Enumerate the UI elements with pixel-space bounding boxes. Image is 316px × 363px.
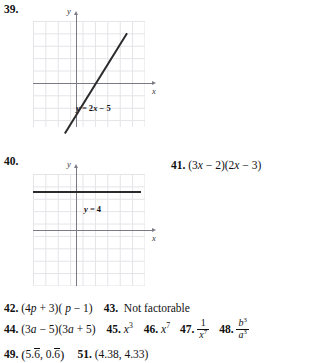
- answer-42: (4p + 3)( p − 1): [18, 302, 92, 314]
- fraction-48: b3a3: [236, 318, 248, 340]
- problem-number-49: 49.: [4, 348, 18, 360]
- problem-number-51: 51.: [77, 348, 91, 360]
- graph-40-line: [33, 191, 141, 193]
- graph-40-x-axis-arrow-icon: [152, 228, 156, 232]
- answer-41: (3x − 2)(2x − 3): [185, 159, 261, 171]
- graph-39-x-axis-arrow-icon: [152, 81, 156, 85]
- answer-47: 1x7: [194, 323, 209, 335]
- graph-40: y x y = 4: [33, 168, 145, 286]
- problem-number-42: 42.: [4, 302, 18, 314]
- answer-44: (3a − 5)(3a + 5): [18, 323, 95, 335]
- answer-row-49-51: 49. (5.6, 0.6)51. (4.38, 4.33): [4, 344, 148, 363]
- problem-number-48: 48.: [219, 323, 233, 335]
- graph-39: y x y = 2x − 5: [33, 15, 145, 127]
- graph-40-x-axis-label: x: [152, 233, 156, 243]
- answer-43: Not factorable: [118, 302, 190, 314]
- fraction-47: 1x7: [197, 318, 209, 340]
- graph-39-y-axis-arrow-icon: [74, 11, 78, 15]
- answer-45: x3: [121, 323, 133, 335]
- graph-40-x-axis: [33, 230, 153, 231]
- graph-40-equation-label: y = 4: [84, 204, 101, 214]
- problem-number-45: 45.: [107, 323, 121, 335]
- answer-46: x7: [158, 323, 170, 335]
- answer-48: b3a3: [234, 323, 249, 335]
- graph-39-eq-mid: = 2: [80, 103, 93, 113]
- answer-entry-41: 41. (3x − 2)(2x − 3): [171, 155, 261, 173]
- graph-40-y-axis-label: y: [67, 159, 71, 169]
- problem-number-46: 46.: [144, 323, 158, 335]
- answer-51: (4.38, 4.33): [92, 348, 149, 360]
- problem-number-39: 39.: [4, 3, 18, 15]
- problem-number-41: 41.: [171, 159, 185, 171]
- graph-39-x-axis-label: x: [152, 86, 156, 96]
- graph-39-equation-label: y = 2x − 5: [76, 103, 111, 113]
- graph-40-y-axis: [76, 168, 77, 286]
- answer-row-42-43: 42. (4p + 3)( p − 1)43. Not factorable: [4, 298, 190, 316]
- graph-40-y-axis-arrow-icon: [74, 164, 78, 168]
- problem-number-43: 43.: [104, 302, 118, 314]
- fraction-47-denominator: x7: [197, 330, 209, 341]
- problem-number-47: 47.: [180, 323, 194, 335]
- graph-40-eq-rhs: = 4: [88, 204, 101, 214]
- answer-49: (5.6, 0.6): [18, 348, 64, 360]
- graph-39-y-axis-label: y: [67, 6, 71, 16]
- problem-number-44: 44.: [4, 323, 18, 335]
- graph-39-eq-rhs: − 5: [97, 103, 110, 113]
- answer-row-44-48: 44. (3a − 5)(3a + 5)45. x346. x747. 1x74…: [4, 319, 249, 341]
- fraction-48-denominator: a3: [236, 330, 248, 341]
- problem-number-40: 40.: [4, 155, 18, 167]
